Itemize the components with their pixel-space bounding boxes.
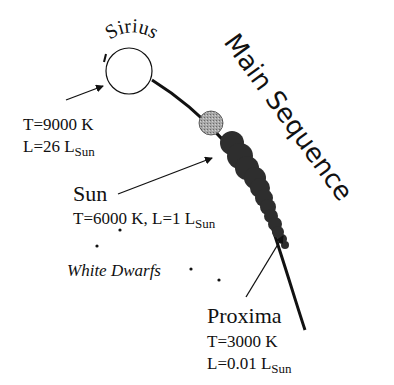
proxima-arrow: [246, 236, 283, 297]
sun-info: T=6000 K, L=1 LSun: [73, 210, 215, 230]
sirius-lum-value: L=26 L: [23, 137, 75, 156]
proxima-lum-value: L=0.01 L: [207, 354, 271, 373]
proxima-label: Proxima: [207, 305, 282, 327]
proxima-luminosity: L=0.01 LSun: [207, 355, 292, 375]
sirius-temp: T=9000 K: [23, 116, 94, 133]
sirius-lum-sub: Sun: [75, 144, 95, 159]
sirius-star: [106, 48, 152, 94]
hr-diagram-canvas: Sirius Main Sequence: [0, 0, 394, 385]
sun-label: Sun: [73, 183, 107, 205]
sirius-arrow: [66, 86, 103, 100]
main-sequence-stars: [220, 131, 289, 249]
sirius-tick: [104, 54, 106, 62]
proxima-temp: T=3000 K: [207, 333, 278, 350]
sun-info-value: T=6000 K, L=1 L: [73, 209, 195, 228]
main-sequence-label: Main Sequence: [218, 28, 359, 206]
proxima-lum-sub: Sun: [271, 361, 291, 376]
sun-arrow: [118, 158, 212, 194]
sun-star: [199, 111, 223, 135]
sirius-label: Sirius: [101, 14, 163, 43]
sun-lum-sub: Sun: [195, 216, 215, 231]
sirius-luminosity: L=26 LSun: [23, 138, 95, 158]
white-dwarfs-label: White Dwarfs: [67, 262, 161, 279]
